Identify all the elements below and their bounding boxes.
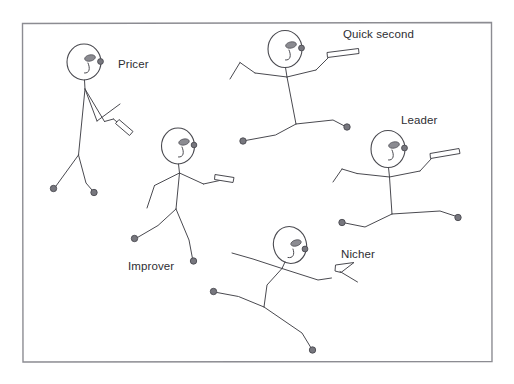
figure-label-nicher: Nicher bbox=[341, 248, 375, 260]
quick-second-head bbox=[268, 31, 304, 68]
figure-leader: Leader bbox=[333, 114, 461, 227]
stick-figure-scene: Pricer bbox=[0, 0, 514, 384]
improver-head bbox=[162, 128, 197, 164]
nicher-tool bbox=[335, 263, 358, 283]
figure-label-leader: Leader bbox=[401, 114, 437, 126]
figure-pricer: Pricer bbox=[50, 44, 148, 196]
leader-head bbox=[371, 131, 407, 168]
pricer-tool bbox=[116, 120, 134, 136]
quick-second-tool bbox=[327, 49, 359, 58]
figure-nicher: Nicher bbox=[210, 223, 375, 353]
figure-improver: Improver bbox=[128, 128, 234, 272]
figure-quick-second: Quick second bbox=[230, 28, 414, 144]
figure-label-quick-second: Quick second bbox=[343, 28, 414, 40]
figure-label-pricer: Pricer bbox=[118, 58, 149, 70]
nicher-head bbox=[270, 223, 311, 267]
figure-label-improver: Improver bbox=[128, 260, 174, 272]
diagram-canvas: Pricer bbox=[0, 0, 514, 384]
pricer-head bbox=[67, 44, 103, 80]
leader-tool bbox=[430, 149, 460, 159]
